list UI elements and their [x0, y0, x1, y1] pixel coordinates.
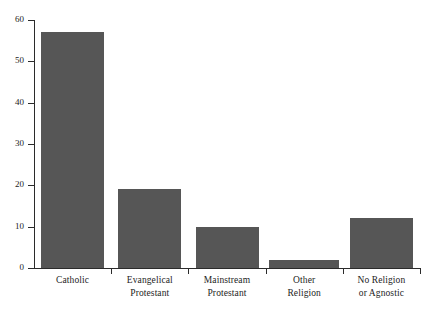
- x-tick-label: OtherReligion: [266, 274, 343, 300]
- y-tick-label: 40: [15, 96, 24, 109]
- x-axis-line: [34, 268, 421, 269]
- bar-chart: 0102030405060 CatholicEvangelicalProtest…: [0, 0, 442, 318]
- x-tick-label-line1: Mainstream: [204, 275, 250, 285]
- x-tick-label-line1: No Religion: [357, 275, 405, 285]
- x-tick-label-line2: Religion: [266, 287, 343, 300]
- plot-area: [34, 20, 420, 268]
- bar[interactable]: [269, 260, 339, 268]
- bar[interactable]: [41, 32, 104, 268]
- y-tick: 0: [28, 268, 34, 269]
- x-tick-label: EvangelicalProtestant: [111, 274, 188, 300]
- x-tick-label-line2: Protestant: [188, 287, 265, 300]
- y-tick-mark: [28, 268, 34, 269]
- x-tick-label-line1: Evangelical: [127, 275, 173, 285]
- x-tick-label-line2: Protestant: [111, 287, 188, 300]
- bar[interactable]: [118, 189, 181, 268]
- y-tick-label: 0: [20, 261, 25, 274]
- y-tick-label: 60: [15, 13, 24, 26]
- x-tick-label-line1: Other: [293, 275, 315, 285]
- x-axis-end-tick: [420, 269, 421, 274]
- x-tick-label-line2: or Agnostic: [343, 287, 420, 300]
- bar[interactable]: [196, 227, 259, 268]
- x-tick-label: MainstreamProtestant: [188, 274, 265, 300]
- y-tick-label: 50: [15, 54, 24, 67]
- y-tick-label: 10: [15, 220, 24, 233]
- y-tick-label: 30: [15, 137, 24, 150]
- x-tick-label: Catholic: [34, 274, 111, 287]
- bar[interactable]: [350, 218, 413, 268]
- y-tick-label: 20: [15, 178, 24, 191]
- x-tick-label: No Religionor Agnostic: [343, 274, 420, 300]
- x-tick-label-line1: Catholic: [56, 275, 89, 285]
